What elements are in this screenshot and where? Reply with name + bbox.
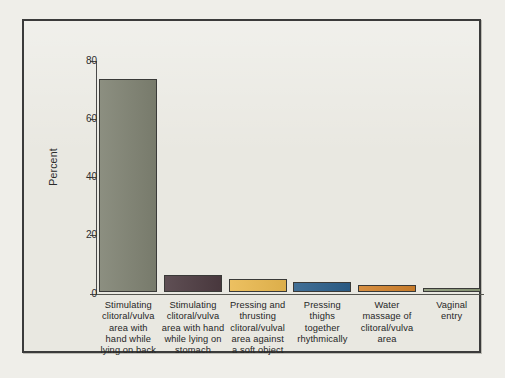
bar-shading [294,283,350,291]
category-label-line: Pressing and [225,300,290,311]
category-label-line: massage of [355,311,420,322]
category-label: Stimulatingclitoral/vulvaarea withhand w… [96,300,161,356]
category-label-line: thighs [290,311,355,322]
bar-shading [359,286,415,291]
category-label-line: clitoral/vulva [96,311,161,322]
category-label-line: area with hand [161,323,226,334]
category-label-line: hand while [96,334,161,345]
category-label-line: area against [225,334,290,345]
screenshot-root: Percent 0 20 40 60 80 Stimulatingclitora… [0,0,505,378]
bar [358,285,416,292]
category-label: Watermassage ofclitoral/vulvaarea [355,300,420,345]
category-label-line: Water [355,300,420,311]
category-label: Pressing andthrustingclitoral/vulvalarea… [225,300,290,356]
category-label-line: lying on back [96,345,161,356]
category-label: Vaginalentry [419,300,484,323]
category-label: Pressingthighstogetherrhythmically [290,300,355,345]
category-label-line: thrusting [225,311,290,322]
category-label-line: Stimulating [96,300,161,311]
bar [293,282,351,292]
bar [164,275,222,292]
bar [99,79,157,292]
category-label-line: rhythmically [290,334,355,345]
category-label-line: Vaginal [419,300,484,311]
category-label-line: clitoral/vulva [355,323,420,334]
category-label-line: clitoral/vulval [225,323,290,334]
bar-shading [230,280,286,291]
category-label-line: together [290,323,355,334]
bar-shading [165,276,221,291]
bar [423,288,481,292]
category-label-line: a soft object [225,345,290,356]
bar [229,279,287,292]
bar-shading [100,80,156,291]
bar-shading [424,289,480,291]
category-label-line: area with [96,323,161,334]
category-label-line: clitoral/vulva [161,311,226,322]
category-label-line: stomach [161,345,226,356]
category-label-line: Pressing [290,300,355,311]
chart-figure-frame: Percent 0 20 40 60 80 Stimulatingclitora… [22,19,481,353]
category-label-line: entry [419,311,484,322]
category-label: Stimulatingclitoral/vulvaarea with handw… [161,300,226,356]
category-label-line: Stimulating [161,300,226,311]
category-label-line: while lying on [161,334,226,345]
category-label-line: area [355,334,420,345]
